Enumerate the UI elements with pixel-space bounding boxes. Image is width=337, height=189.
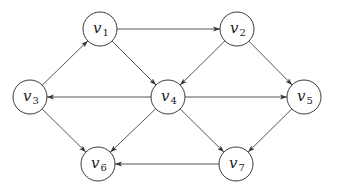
edge-v3-v1 bbox=[42, 41, 88, 85]
arrow-line bbox=[180, 109, 224, 152]
node-v7: v7 bbox=[219, 147, 253, 181]
arrow-line bbox=[110, 109, 155, 152]
node-v1: v1 bbox=[83, 12, 117, 46]
edge-v2-v5 bbox=[249, 41, 292, 85]
edge-v3-v6 bbox=[42, 109, 86, 152]
arrow-line bbox=[112, 41, 156, 85]
arrow-line bbox=[42, 41, 88, 85]
edge-v4-v6 bbox=[110, 109, 155, 152]
directed-graph: v1v2v3v4v5v6v7 bbox=[0, 0, 337, 189]
node-v6: v6 bbox=[81, 147, 115, 181]
arrow-line bbox=[42, 109, 86, 152]
edge-v4-v7 bbox=[180, 109, 224, 152]
edge-v5-v7 bbox=[248, 109, 292, 152]
arrow-line bbox=[248, 109, 292, 152]
nodes-layer: v1v2v3v4v5v6v7 bbox=[13, 12, 321, 181]
node-v4: v4 bbox=[151, 80, 185, 114]
node-v3: v3 bbox=[13, 80, 47, 114]
edge-v1-v4 bbox=[112, 41, 156, 85]
edge-v2-v4 bbox=[180, 41, 225, 85]
node-v5: v5 bbox=[287, 80, 321, 114]
arrow-line bbox=[180, 41, 225, 85]
arrow-line bbox=[249, 41, 292, 85]
node-v2: v2 bbox=[220, 12, 254, 46]
